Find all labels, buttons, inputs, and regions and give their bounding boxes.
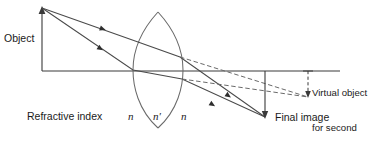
refractive-index-label: Refractive index (27, 110, 102, 122)
object-label: Object (4, 32, 34, 44)
lens-back-surface (158, 12, 183, 128)
refractive-index-n-right-label: n (181, 110, 187, 123)
virtual-object-arrowhead-icon (305, 91, 311, 98)
optics-ray-diagram-figure: Object Refractive index n n′ n Virtual o… (0, 0, 387, 141)
ray-upper-solid (42, 8, 265, 117)
virtual-extension-upper-dashed (180, 57, 308, 97)
refractive-index-n-prime-label: n′ (153, 110, 161, 123)
virtual-object-label-line-2: for second (312, 122, 367, 134)
virtual-object-label: Virtual object for second surface (312, 64, 367, 141)
final-image-label: Final image (275, 111, 329, 123)
emergent-lower-arrowhead-icon (209, 101, 217, 109)
virtual-object-label-line-1: Virtual object (312, 87, 367, 99)
ray-lower-solid (42, 8, 265, 117)
refractive-index-n-left-label: n (128, 110, 134, 123)
incident-upper-arrowhead-icon (99, 26, 106, 33)
